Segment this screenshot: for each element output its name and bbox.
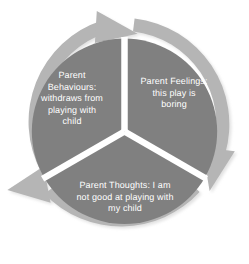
cycle-diagram-graphic bbox=[0, 0, 249, 264]
cycle-diagram: Parent Behaviours: withdraws from playin… bbox=[0, 0, 249, 264]
